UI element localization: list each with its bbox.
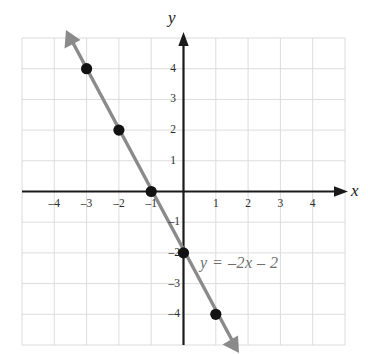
line-arrow-upper-icon <box>65 30 81 49</box>
x-tick-label: 2 <box>245 198 251 210</box>
x-tick-label: –3 <box>81 198 93 210</box>
x-tick-label: –4 <box>49 198 61 210</box>
data-point <box>210 309 221 320</box>
y-axis-label: y <box>168 9 176 26</box>
y-tick-label: 4 <box>170 63 176 75</box>
y-tick-label: –2 <box>169 247 181 259</box>
y-axis <box>178 32 188 345</box>
coordinate-plane-svg <box>0 0 368 354</box>
data-point <box>113 125 124 136</box>
x-tick-label: 1 <box>213 198 219 210</box>
x-tick-label: –2 <box>113 198 125 210</box>
y-tick-label: –4 <box>169 309 181 321</box>
y-axis-arrow-icon <box>178 32 188 46</box>
x-tick-label: 3 <box>278 198 284 210</box>
x-axis-arrow-icon <box>334 186 348 196</box>
x-axis <box>22 186 348 196</box>
data-point <box>81 63 92 74</box>
x-tick-label: 4 <box>310 198 316 210</box>
y-tick-label: 1 <box>170 155 176 167</box>
data-point <box>146 186 157 197</box>
graph-figure: y x –4 –3 –2 –1 1 2 3 4 4 3 2 1 –1 –2 –3… <box>0 0 368 354</box>
equation-annotation: y = –2x – 2 <box>200 255 279 271</box>
x-tick-label: –1 <box>145 198 157 210</box>
y-tick-label: 3 <box>170 94 176 106</box>
y-tick-label: 2 <box>170 124 176 136</box>
x-axis-label: x <box>351 182 359 199</box>
y-tick-label: –1 <box>169 216 181 228</box>
y-tick-label: –3 <box>169 278 181 290</box>
